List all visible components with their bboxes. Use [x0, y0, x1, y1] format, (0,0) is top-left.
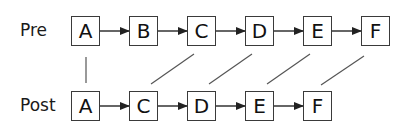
- mapping-lines: [86, 54, 364, 85]
- post-node-a: A: [71, 91, 100, 121]
- pre-node-e: E: [303, 16, 332, 46]
- pre-node-a: A: [71, 16, 100, 46]
- pre-row-label: Pre: [20, 20, 47, 40]
- mapping-d: [209, 54, 252, 84]
- post-row-label: Post: [20, 95, 56, 115]
- post-node-f: F: [303, 91, 332, 121]
- post-node-e: E: [245, 91, 274, 121]
- pre-node-c: C: [187, 16, 216, 46]
- mapping-e: [267, 54, 310, 84]
- pre-node-d: D: [245, 16, 274, 46]
- post-node-c: C: [129, 91, 158, 121]
- pre-node-f: F: [361, 16, 390, 46]
- post-node-d: D: [187, 91, 216, 121]
- mapping-c: [151, 54, 194, 84]
- pre-node-b: B: [129, 16, 158, 46]
- mapping-f: [321, 56, 364, 85]
